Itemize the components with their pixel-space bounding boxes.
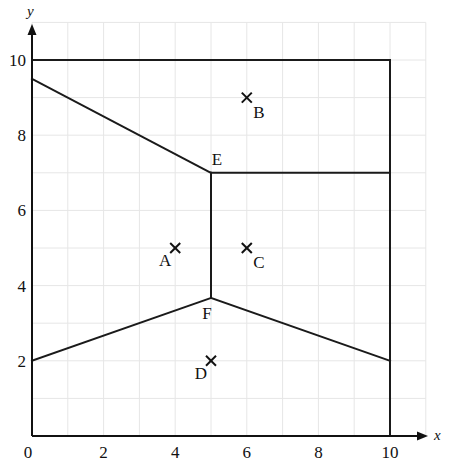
x-axis-arrow-icon — [417, 432, 428, 441]
region-boundary-segment — [211, 298, 390, 361]
x-tick-label: 10 — [382, 443, 399, 462]
y-tick-label: 10 — [9, 51, 26, 70]
origin-label: 0 — [24, 443, 33, 462]
y-axis-label: y — [25, 3, 34, 19]
point-label: A — [159, 251, 172, 270]
x-tick-label: 8 — [314, 443, 323, 462]
point-label: D — [195, 364, 207, 383]
point-marker-d: D — [195, 356, 216, 383]
y-tick-label: 4 — [18, 277, 27, 296]
point-marker-b: B — [242, 93, 265, 122]
y-tick-label: 8 — [18, 126, 27, 145]
x-tick-label: 6 — [243, 443, 252, 462]
x-tick-label: 4 — [171, 443, 180, 462]
point-label: C — [253, 253, 264, 272]
voronoi-diagram: xy 0246810246810 ABCD EF — [0, 0, 449, 466]
x-tick-label: 2 — [99, 443, 108, 462]
vertex-label-e: E — [212, 150, 222, 169]
y-axis-arrow-icon — [28, 24, 37, 35]
vertex-label-f: F — [202, 304, 211, 323]
region-boundary-segment — [32, 298, 211, 361]
point-label: B — [253, 103, 264, 122]
point-marker-a: A — [159, 243, 180, 270]
y-tick-label: 2 — [18, 352, 27, 371]
grid — [32, 22, 426, 436]
vertex-labels: EF — [202, 150, 222, 323]
region-boundary-segment — [32, 79, 211, 173]
y-tick-label: 6 — [18, 201, 27, 220]
point-marker-c: C — [242, 243, 265, 272]
x-axis-label: x — [433, 427, 441, 443]
axes: xy — [25, 3, 441, 443]
